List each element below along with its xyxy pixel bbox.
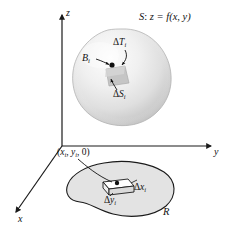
label-dyi-subscript: i <box>114 199 116 206</box>
region-element-box <box>103 179 134 195</box>
label-dsi-subscript: i <box>124 93 126 100</box>
label-delta-yi: Δyi <box>104 196 116 206</box>
label-delta-xi: Δxi <box>134 183 146 193</box>
label-dxi-subscript: i <box>144 186 146 193</box>
figure-canvas: z y x S: z = f(x, y) Bi ΔTi ΔSi (xi, yi,… <box>0 0 227 237</box>
surface-patch-delta-s <box>105 66 129 86</box>
label-delta-si: ΔSi <box>113 90 126 100</box>
region-sample-point <box>115 181 119 185</box>
paren-close: ) <box>86 147 89 157</box>
surface-label-equation: z = f(x, y) <box>150 11 191 22</box>
axis-label-x: x <box>18 214 22 224</box>
label-delta-ti: ΔTi <box>113 38 126 48</box>
axis-label-z: z <box>66 8 70 18</box>
label-point-bi: Bi <box>82 53 90 65</box>
axis-x-line <box>16 146 62 212</box>
axis-label-y: y <box>214 147 218 157</box>
label-dti-subscript: i <box>124 41 126 48</box>
surface-label-colon: : <box>144 11 147 22</box>
label-bi-subscript: i <box>88 57 90 64</box>
label-region-r: R <box>163 207 169 218</box>
surface-point-bi <box>109 62 114 67</box>
label-region-sample-point: (xi, yi, 0) <box>57 148 90 158</box>
surface-equation-label: S: z = f(x, y) <box>139 12 191 23</box>
